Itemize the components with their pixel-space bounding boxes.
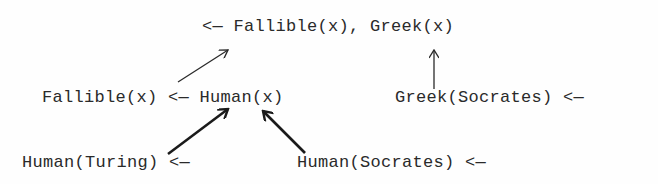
rule-clause-fallible: Fallible(x) <— Human(x): [42, 88, 284, 108]
arrow-fallible-to-goal-icon: [178, 50, 228, 82]
arrow-turing-to-human-icon: [168, 109, 228, 154]
arrow-socrates-to-human-icon: [263, 111, 305, 153]
fact-clause-human-turing: Human(Turing) <—: [22, 153, 190, 173]
fact-clause-greek-socrates: Greek(Socrates) <—: [395, 88, 584, 108]
goal-clause: <— Fallible(x), Greek(x): [202, 17, 454, 37]
fact-clause-human-socrates: Human(Socrates) <—: [297, 153, 486, 173]
resolution-diagram: <— Fallible(x), Greek(x) Fallible(x) <— …: [0, 0, 658, 184]
